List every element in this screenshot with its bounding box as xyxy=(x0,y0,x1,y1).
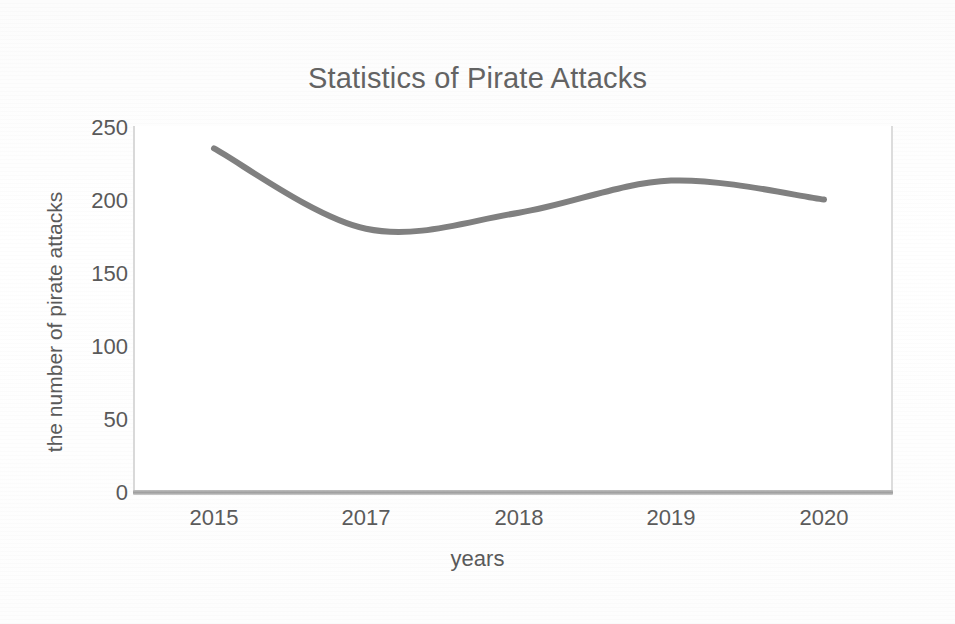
x-tick-label: 2018 xyxy=(449,505,589,531)
line-chart-figure: Statistics of Pirate Attacks 0 50 100 15… xyxy=(0,0,955,624)
x-tick-label: 2019 xyxy=(601,505,741,531)
x-axis-title: years xyxy=(0,546,955,572)
x-tick-label: 2015 xyxy=(144,505,284,531)
plot-area xyxy=(133,126,893,494)
plot-right-border xyxy=(891,126,893,494)
x-axis-line xyxy=(133,490,893,495)
chart-title: Statistics of Pirate Attacks xyxy=(0,62,955,95)
x-tick-label: 2020 xyxy=(754,505,894,531)
x-axis-tick-labels: 2015 2017 2018 2019 2020 xyxy=(0,505,955,539)
y-axis-line xyxy=(133,126,135,494)
x-tick-label: 2017 xyxy=(296,505,436,531)
y-axis-title: the number of pirate attacks xyxy=(43,157,67,487)
y-tick-label: 250 xyxy=(28,115,128,141)
